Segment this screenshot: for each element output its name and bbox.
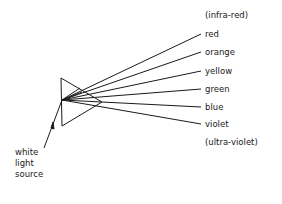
ray-arrow-icon — [51, 122, 54, 129]
label-red: red — [205, 29, 219, 39]
label-infra-red: (infra-red) — [205, 10, 248, 20]
ray-yellow — [62, 71, 201, 100]
label-violet: violet — [205, 119, 229, 129]
label-yellow: yellow — [205, 66, 232, 76]
ray-red — [62, 34, 201, 100]
label-source-white: white — [15, 147, 38, 157]
prism-diagram: (infra-red) red orange yellow green blue… — [0, 0, 282, 204]
label-green: green — [205, 84, 230, 94]
label-ultra-violet: (ultra-violet) — [205, 137, 258, 147]
label-source-light: light — [15, 158, 34, 168]
ray-orange — [62, 52, 201, 100]
label-source-source: source — [15, 169, 43, 179]
label-blue: blue — [205, 102, 223, 112]
label-orange: orange — [205, 47, 235, 57]
